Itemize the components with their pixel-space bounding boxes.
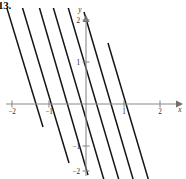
y-axis-arrow-icon <box>83 15 90 22</box>
y-tick-label-pos2: 2 <box>76 17 80 25</box>
solution-line-6 <box>84 12 158 179</box>
figure-container: 13. <box>0 0 186 179</box>
x-tick-label-neg1: −1 <box>45 108 53 116</box>
x-axis-label: x <box>177 105 182 114</box>
graph-plot: −2 −1 1 2 2 1 −1 −2 y x <box>0 0 186 179</box>
y-tick-label-neg1: −1 <box>72 143 80 151</box>
solution-line-7 <box>108 43 179 179</box>
y-axis-label: y <box>77 5 82 14</box>
solution-line-1 <box>0 0 43 127</box>
x-tick-label-pos1: 1 <box>122 108 126 116</box>
y-tick-label-neg2: −2 <box>72 168 80 176</box>
x-tick-label-neg2: −2 <box>8 108 16 116</box>
line-family-group <box>0 0 179 179</box>
y-tick-label-pos1: 1 <box>76 59 80 67</box>
x-tick-label-pos2: 2 <box>158 108 162 116</box>
